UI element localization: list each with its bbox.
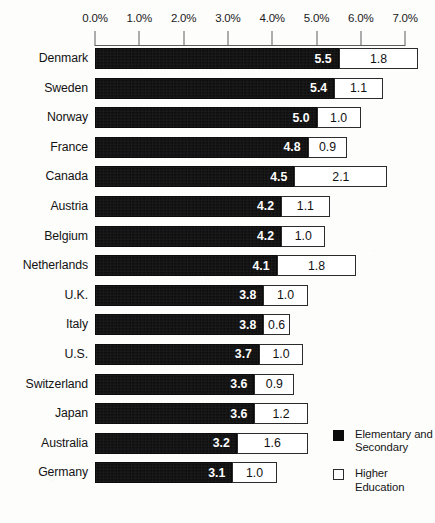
bar-value-label: 5.4 [310,81,333,95]
bar-value-label: 2.1 [332,170,349,184]
bar-segment-higher-education: 1.8 [277,255,357,276]
stacked-bar: 3.80.6 [95,314,290,335]
bar-segment-elementary-secondary: 5.4 [95,78,334,99]
bar-value-label: 4.1 [253,259,276,273]
bar-value-label: 1.0 [277,288,294,302]
legend-item: Higher Education [333,467,433,493]
bar-value-label: 1.8 [308,259,325,273]
stacked-bar: 3.61.2 [95,403,308,424]
chart-row: Norway5.01.0 [0,107,435,137]
category-label: Denmark [0,48,88,69]
stacked-bar: 4.80.9 [95,137,348,158]
category-label: Germany [0,462,88,483]
x-axis-tick-labels: 0.0%1.0%2.0%3.0%4.0%5.0%6.0%7.0% [0,12,435,28]
chart-row: Denmark5.51.8 [0,48,435,78]
bar-value-label: 3.6 [230,407,253,421]
chart-row: Belgium4.21.0 [0,226,435,256]
x-axis-tick-mark [95,31,96,46]
stacked-bar: 4.11.8 [95,255,356,276]
bar-segment-higher-education: 1.1 [334,78,383,99]
stacked-bar: 3.81.0 [95,285,308,306]
x-axis-tick-label: 6.0% [348,12,373,24]
bar-segment-higher-education: 1.0 [281,226,325,247]
bar-value-label: 1.0 [273,347,290,361]
category-label: France [0,137,88,158]
bar-value-label: 4.2 [257,229,280,243]
chart-row: U.S.3.71.0 [0,344,435,374]
bar-value-label: 1.2 [272,407,289,421]
bar-value-label: 0.9 [266,377,283,391]
x-axis-tick-mark [405,31,406,46]
bar-segment-higher-education: 1.0 [232,462,276,483]
chart-row: U.K.3.81.0 [0,285,435,315]
bar-segment-higher-education: 1.0 [317,107,361,128]
bar-segment-higher-education: 1.0 [259,344,303,365]
category-label: Canada [0,166,88,187]
bar-value-label: 1.0 [330,111,347,125]
legend-label: Higher Education [355,467,433,493]
x-axis-tick-label: 5.0% [304,12,329,24]
x-axis-tick-label: 1.0% [127,12,152,24]
stacked-bar: 5.41.1 [95,78,383,99]
bar-segment-elementary-secondary: 4.2 [95,196,281,217]
bar-segment-elementary-secondary: 3.6 [95,403,254,424]
bar-value-label: 5.0 [292,111,315,125]
bar-segment-elementary-secondary: 4.1 [95,255,277,276]
bar-value-label: 3.2 [213,436,236,450]
bar-segment-higher-education: 1.2 [254,403,307,424]
hollow-square-icon [333,469,344,480]
bar-segment-higher-education: 1.0 [263,285,307,306]
bar-rows: Denmark5.51.8Sweden5.41.1Norway5.01.0Fra… [0,48,435,492]
bar-segment-elementary-secondary: 3.1 [95,462,232,483]
bar-value-label: 1.0 [295,229,312,243]
filled-square-icon [333,430,344,441]
chart-row: Switzerland3.60.9 [0,374,435,404]
chart-row: Netherlands4.11.8 [0,255,435,285]
bar-segment-elementary-secondary: 3.7 [95,344,259,365]
bar-segment-elementary-secondary: 4.2 [95,226,281,247]
bar-value-label: 1.0 [246,466,263,480]
stacked-bar: 4.21.0 [95,226,325,247]
category-label: Netherlands [0,255,88,276]
bar-value-label: 0.9 [319,140,336,154]
bar-segment-elementary-secondary: 3.8 [95,285,263,306]
bar-segment-elementary-secondary: 3.8 [95,314,263,335]
category-label: U.S. [0,344,88,365]
stacked-bar: 3.71.0 [95,344,303,365]
bar-value-label: 3.1 [208,466,231,480]
bar-segment-higher-education: 2.1 [294,166,387,187]
x-axis-tick-label: 2.0% [171,12,196,24]
bar-segment-higher-education: 0.9 [254,374,294,395]
bar-value-label: 3.6 [230,377,253,391]
stacked-bar-chart: 0.0%1.0%2.0%3.0%4.0%5.0%6.0%7.0% Denmark… [0,0,435,523]
category-label: Australia [0,433,88,454]
x-axis-tick-label: 4.0% [259,12,284,24]
bar-segment-higher-education: 1.1 [281,196,330,217]
legend-item: Elementary and Secondary [333,428,433,454]
category-label: Switzerland [0,374,88,395]
x-axis-tick-mark [139,31,140,46]
category-label: U.K. [0,285,88,306]
bar-segment-higher-education: 1.8 [339,48,419,69]
bar-value-label: 3.8 [239,288,262,302]
category-label: Belgium [0,226,88,247]
bar-segment-higher-education: 1.6 [237,433,308,454]
category-label: Japan [0,403,88,424]
chart-row: Sweden5.41.1 [0,78,435,108]
x-axis-tick-label: 7.0% [392,12,417,24]
x-axis-tick-mark [316,31,317,46]
bar-segment-elementary-secondary: 3.2 [95,433,237,454]
bar-segment-elementary-secondary: 3.6 [95,374,254,395]
bar-segment-elementary-secondary: 4.5 [95,166,294,187]
stacked-bar: 3.60.9 [95,374,294,395]
category-label: Italy [0,314,88,335]
x-axis-tick-mark [272,31,273,46]
bar-segment-higher-education: 0.9 [308,137,348,158]
stacked-bar: 5.51.8 [95,48,418,69]
x-axis-tick-label: 3.0% [215,12,240,24]
x-axis-tick-label: 0.0% [82,12,107,24]
bar-value-label: 5.5 [315,52,338,66]
legend-label: Elementary and Secondary [355,428,433,454]
category-label: Austria [0,196,88,217]
bar-value-label: 0.6 [268,318,285,332]
